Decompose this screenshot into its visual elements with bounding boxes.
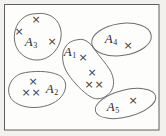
element-mark: × bbox=[123, 40, 132, 51]
element-mark: × bbox=[47, 36, 56, 47]
set-label-A2: A2 bbox=[46, 82, 58, 97]
set-label-A4: A4 bbox=[105, 32, 117, 47]
element-mark: × bbox=[78, 52, 87, 63]
element-mark: × bbox=[94, 79, 103, 90]
element-mark: × bbox=[87, 67, 96, 78]
element-mark: × bbox=[84, 79, 93, 90]
element-mark: × bbox=[128, 95, 137, 106]
element-mark: × bbox=[31, 87, 40, 98]
set-label-A5: A5 bbox=[107, 100, 119, 115]
element-mark: × bbox=[31, 14, 40, 25]
element-mark: × bbox=[21, 87, 30, 98]
element-mark: × bbox=[14, 26, 23, 37]
set-label-A3: A3 bbox=[25, 35, 37, 50]
labels-overlay: A1××××A2×××A3×××A4×A5× bbox=[0, 0, 166, 136]
set-diagram: A1××××A2×××A3×××A4×A5× bbox=[0, 0, 166, 136]
set-label-A1: A1 bbox=[64, 45, 76, 60]
